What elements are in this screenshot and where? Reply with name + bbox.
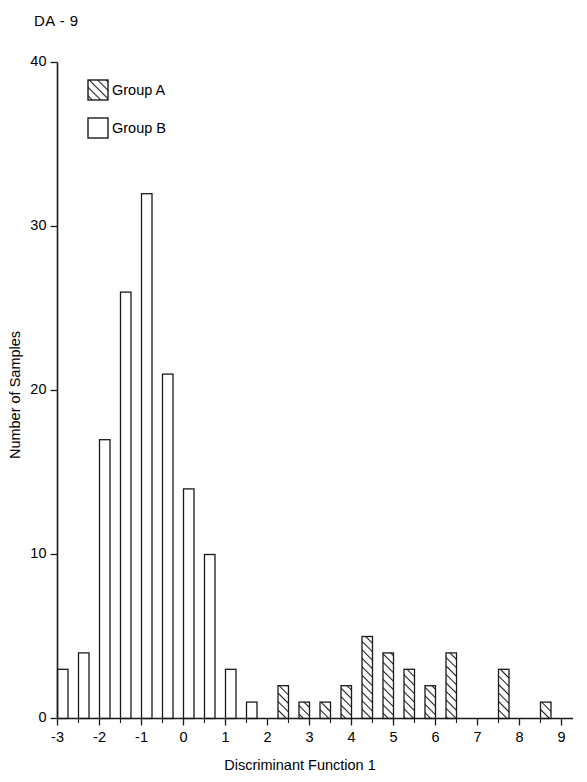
histogram-bar	[320, 702, 331, 718]
legend-swatch-group-a	[88, 80, 108, 100]
x-tick-label: 2	[263, 729, 271, 745]
histogram-bar	[341, 686, 352, 719]
histogram-bar	[121, 292, 132, 718]
x-tick-label: 9	[557, 729, 565, 745]
histogram-bar	[541, 702, 552, 718]
histogram-bar	[362, 637, 373, 719]
legend-label-group-b: Group B	[112, 120, 166, 136]
histogram-bar	[226, 669, 237, 718]
histogram-bar	[425, 686, 436, 719]
y-tick-label: 0	[38, 709, 46, 725]
histogram-bar	[446, 653, 457, 719]
legend-swatch-group-b	[88, 118, 108, 138]
histogram-bar	[163, 374, 174, 718]
x-axis-title: Discriminant Function 1	[224, 757, 376, 773]
y-tick-label: 30	[30, 217, 46, 233]
x-tick-label: -2	[93, 729, 106, 745]
histogram-bar	[499, 669, 510, 718]
axes-layer	[58, 63, 574, 719]
legend: Group A Group B	[88, 80, 166, 138]
y-ticks: 010203040	[30, 53, 57, 725]
x-tick-label: -3	[51, 729, 64, 745]
x-tick-label: 5	[389, 729, 397, 745]
x-tick-label: 1	[221, 729, 229, 745]
histogram-bar	[142, 194, 153, 719]
histogram-plot: 010203040 -3-2-10123456789 Discriminant …	[0, 0, 587, 782]
histogram-bar	[184, 489, 195, 719]
histogram-bar	[383, 653, 394, 719]
legend-label-group-a: Group A	[112, 82, 166, 98]
x-tick-label: 7	[473, 729, 481, 745]
histogram-bar	[299, 702, 310, 718]
y-tick-label: 10	[30, 545, 46, 561]
histogram-bar	[205, 555, 216, 719]
x-tick-label: 6	[431, 729, 439, 745]
x-ticks: -3-2-10123456789	[51, 719, 565, 745]
x-tick-label: 4	[347, 729, 355, 745]
y-tick-label: 40	[30, 53, 46, 69]
histogram-bar	[247, 702, 258, 718]
chart-root: DA - 9 010203040 -3-2-10123456789 Di	[0, 0, 587, 782]
y-tick-label: 20	[30, 381, 46, 397]
histogram-bar	[278, 686, 289, 719]
histogram-bar	[58, 669, 69, 718]
y-axis-title: Number of Samples	[7, 331, 23, 459]
x-tick-label: 3	[305, 729, 313, 745]
x-tick-label: -1	[135, 729, 148, 745]
bars-layer	[58, 194, 552, 719]
histogram-bar	[100, 440, 111, 719]
x-tick-label: 8	[515, 729, 523, 745]
x-tick-label: 0	[179, 729, 187, 745]
histogram-bar	[79, 653, 90, 719]
histogram-bar	[404, 669, 415, 718]
